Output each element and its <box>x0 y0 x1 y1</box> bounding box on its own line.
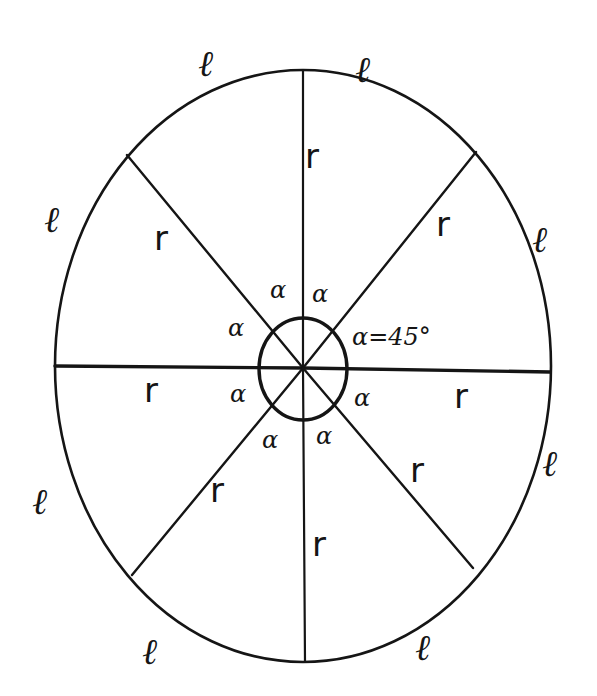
angle-label: α <box>312 280 328 308</box>
arc-label: ℓ <box>142 631 157 672</box>
angle-label: α <box>316 422 332 450</box>
radius-lower-right <box>303 368 473 568</box>
radius-label: r <box>436 204 450 244</box>
angle-label: α <box>354 384 370 412</box>
radius-upper-left <box>127 155 303 368</box>
radius-label: r <box>154 218 168 258</box>
arc-label: ℓ <box>44 199 59 240</box>
arc-label: ℓ <box>542 443 557 484</box>
radius-label: r <box>210 470 224 510</box>
radius-label: r <box>144 370 158 410</box>
radius-left <box>55 366 303 368</box>
sector-diagram: ℓ ℓ ℓ ℓ ℓ ℓ ℓ ℓ r r r r r r r r α α α α … <box>0 0 597 696</box>
arc-label: ℓ <box>32 481 47 522</box>
radius-bottom <box>303 368 305 662</box>
radius-label: r <box>410 450 424 490</box>
arc-label: ℓ <box>415 627 430 668</box>
angle-label: α <box>230 380 246 408</box>
radius-label: r <box>454 376 468 416</box>
arc-label: ℓ <box>355 49 370 90</box>
radius-label: r <box>312 524 326 564</box>
radius-label: r <box>305 136 319 176</box>
angle-label: α <box>262 426 278 454</box>
arc-label: ℓ <box>532 219 547 260</box>
radii <box>55 70 550 662</box>
arc-label: ℓ <box>198 43 213 84</box>
angle-value-annotation: α=45° <box>352 323 431 351</box>
angle-label: α <box>270 276 286 304</box>
radius-right <box>303 368 550 372</box>
angle-label: α <box>228 314 244 342</box>
